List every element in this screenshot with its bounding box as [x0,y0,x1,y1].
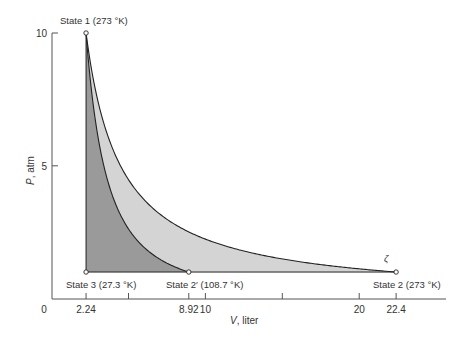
state3-label: State 3 (27.3 °K) [66,279,136,290]
x-axis-label: V, liter [230,315,259,326]
state-point [187,270,191,274]
state-point [84,270,88,274]
pv-diagram: 02.248.92102022.4510 State 1 (273 °K) St… [0,0,467,345]
x-tick-label: 20 [354,304,366,315]
x-tick-label: 10 [200,304,212,315]
x-tick-label: 2.24 [76,304,96,315]
state-point [394,270,398,274]
x-tick-label: 8.92 [179,304,199,315]
x-tick-label: 0 [41,304,47,315]
x-tick-label: 22.4 [386,304,406,315]
zeta-mark: ζ [384,253,389,264]
state2p-label: State 2′ (108.7 °K) [166,279,243,290]
y-axis-label: P, atm [25,156,36,185]
state2-label: State 2 (273 °K) [373,279,441,290]
y-tick-label: 5 [41,161,47,172]
y-tick-label: 10 [36,28,48,39]
state1-label: State 1 (273 °K) [60,15,128,26]
state-point [84,31,88,35]
